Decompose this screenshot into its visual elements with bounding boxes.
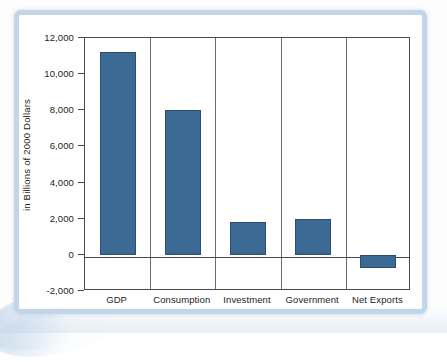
x-axis-category-label: Net Exports [352, 294, 403, 305]
x-axis-category-label: GDP [106, 294, 127, 305]
category-separator [215, 38, 216, 289]
category-separator [346, 38, 347, 289]
y-axis-tick-label: 8,000 [50, 104, 74, 115]
bar [230, 222, 266, 255]
bar [100, 52, 136, 254]
y-axis-tick-label: 4,000 [50, 176, 74, 187]
bar [295, 219, 331, 255]
category-separator [150, 38, 151, 289]
y-axis-tick-label: 0 [69, 248, 74, 259]
bar [165, 110, 201, 255]
y-axis-tick-label: 10,000 [44, 68, 74, 79]
y-axis-tick-label: -2,000 [46, 285, 74, 296]
bar [360, 255, 396, 269]
category-separator [281, 38, 282, 289]
y-axis-tick-label: 12,000 [44, 32, 74, 43]
x-axis-category-label: Investment [223, 294, 270, 305]
plot-area [84, 37, 410, 290]
y-axis-title: in Billions of 2000 Dollars [21, 99, 32, 211]
y-axis-tick-label: 2,000 [50, 212, 74, 223]
y-axis-tick-label: 6,000 [50, 140, 74, 151]
x-axis-category-label: Government [286, 294, 339, 305]
y-axis-tick [78, 290, 84, 291]
x-axis-category-label: Consumption [153, 294, 210, 305]
